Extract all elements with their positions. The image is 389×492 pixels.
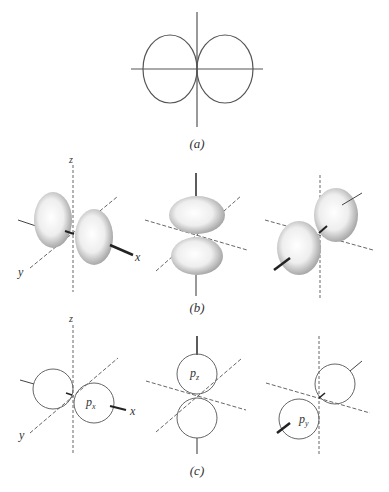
axis-label-y-c: y [19,428,24,443]
panel-a-polar-plot [131,12,263,127]
panel-b-py-surface [265,175,373,298]
axis-label-y-b: y [18,265,23,280]
panel-b-pz-surface [145,173,247,296]
axis-label-x-c: x [130,404,135,419]
axis-label-z-c: z [69,313,73,324]
caption-b: (b) [189,300,204,316]
orbital-label-pz: pz [190,366,199,382]
orbital-label-py: py [299,412,309,428]
panel-c-px-circle [20,325,126,455]
axis-label-x-b: x [135,250,140,265]
orbital-label-px: px [86,395,96,411]
orbital-figure [0,0,389,492]
panel-b-px-surface [18,165,133,292]
caption-c: (c) [190,463,204,479]
panel-c-pz-circle [146,336,246,454]
axis-label-z-b: z [69,154,73,165]
caption-a: (a) [189,136,204,152]
panel-c-py-circle [266,336,370,455]
